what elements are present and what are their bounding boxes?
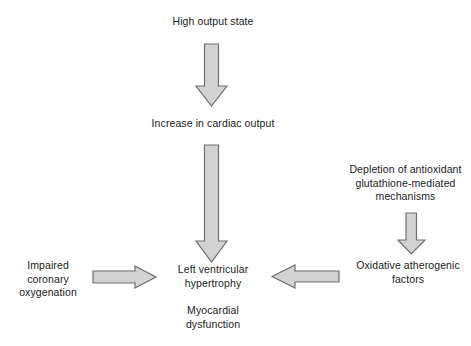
arrow-down-increase-cardiac-output-to-left-ventricular-hypertrophy xyxy=(195,144,228,263)
node-impaired-coronary-oxygenation: Impaired coronary oxygenation xyxy=(2,259,94,300)
arrow-left-oxidative-atherogenic-to-left-ventricular-hypertrophy xyxy=(271,264,340,289)
node-high-output-state: High output state xyxy=(143,15,283,29)
node-oxidative-atherogenic-factors: Oxidative atherogenic factors xyxy=(345,259,471,286)
node-myocardial-dysfunction: Myocardial dysfunction xyxy=(152,304,274,331)
diagram-canvas: High output state Increase in cardiac ou… xyxy=(0,0,471,346)
arrow-down-high-output-to-increase-cardiac-output xyxy=(195,43,228,107)
arrow-down-depletion-to-oxidative-atherogenic-factors xyxy=(397,212,426,255)
node-increase-in-cardiac-output: Increase in cardiac output xyxy=(125,117,301,131)
arrow-right-impaired-coronary-to-left-ventricular-hypertrophy xyxy=(92,265,157,289)
node-left-ventricular-hypertrophy: Left ventricular hypertrophy xyxy=(152,263,274,290)
node-depletion-of-antioxidant-glutathione-mediated-mechanisms: Depletion of antioxidant glutathione-med… xyxy=(340,163,471,204)
